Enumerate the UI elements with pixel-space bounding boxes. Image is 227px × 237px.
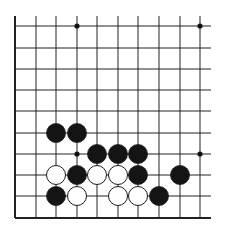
star-point-icon bbox=[74, 23, 79, 28]
white-stone[interactable] bbox=[109, 187, 128, 206]
black-stone[interactable] bbox=[150, 187, 169, 206]
black-stone[interactable] bbox=[129, 145, 148, 164]
white-stone[interactable] bbox=[129, 187, 148, 206]
white-stone[interactable] bbox=[68, 187, 87, 206]
black-stone[interactable] bbox=[129, 166, 148, 185]
black-stone[interactable] bbox=[109, 145, 128, 164]
star-point-icon bbox=[197, 151, 202, 156]
black-stone[interactable] bbox=[47, 124, 66, 143]
star-point-icon bbox=[74, 151, 79, 156]
go-board[interactable] bbox=[0, 0, 227, 237]
black-stone[interactable] bbox=[68, 124, 87, 143]
white-stone[interactable] bbox=[88, 166, 107, 185]
black-stone[interactable] bbox=[68, 166, 87, 185]
white-stone[interactable] bbox=[109, 166, 128, 185]
star-point-icon bbox=[197, 23, 202, 28]
white-stone[interactable] bbox=[47, 166, 66, 185]
black-stone[interactable] bbox=[171, 166, 190, 185]
black-stone[interactable] bbox=[88, 145, 107, 164]
black-stone[interactable] bbox=[47, 187, 66, 206]
